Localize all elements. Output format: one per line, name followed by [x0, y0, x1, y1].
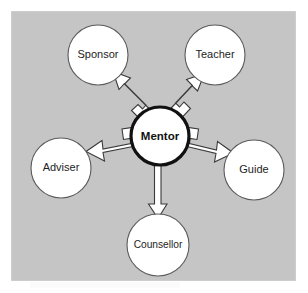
arrow-mentor-to-counsellor	[149, 160, 168, 219]
arrow-shape	[149, 160, 168, 219]
node-mentor-label: Mentor	[141, 130, 180, 142]
node-teacher[interactable]: Teacher	[185, 25, 245, 85]
node-mentor[interactable]: Mentor	[131, 107, 189, 165]
node-guide[interactable]: Guide	[224, 140, 284, 200]
radial-concept-map: Sponsor Teacher Adviser Guide Counsellor…	[0, 0, 308, 293]
node-sponsor-label: Sponsor	[78, 48, 119, 60]
arrow-mentor-to-adviser	[86, 128, 133, 162]
node-teacher-label: Teacher	[195, 48, 234, 60]
arrow-shape	[86, 128, 133, 162]
node-sponsor[interactable]: Sponsor	[68, 25, 128, 85]
node-adviser[interactable]: Adviser	[31, 138, 91, 198]
node-adviser-label: Adviser	[43, 161, 80, 173]
mentor-roles-figure: Sponsor Teacher Adviser Guide Counsellor…	[0, 0, 308, 293]
node-counsellor-label: Counsellor	[134, 239, 183, 250]
node-counsellor[interactable]: Counsellor	[127, 214, 189, 276]
node-guide-label: Guide	[239, 163, 268, 175]
